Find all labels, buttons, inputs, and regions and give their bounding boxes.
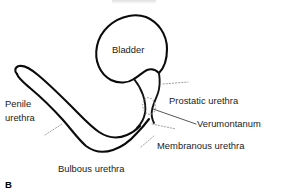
membranous-urethra-boundary-leader: [152, 124, 176, 129]
anatomy-line-drawing: [0, 0, 283, 195]
penile-urethra-label-line1: Penile: [5, 98, 31, 109]
urethra-anatomy-figure: Bladder Penile urethra Bulbous urethra P…: [0, 0, 283, 195]
bladder-label: Bladder: [112, 44, 144, 55]
penile-urethra-label-line2: urethra: [5, 112, 35, 123]
prostatic-urethra-left-wall: [134, 79, 145, 128]
prostatic-urethra-right-wall: [152, 73, 160, 123]
membranous-urethra-label: Membranous urethra: [157, 140, 244, 151]
urethra-upper-wall: [15, 66, 140, 138]
prostatic-urethra-label: Prostatic urethra: [169, 95, 238, 106]
verumontanum-label: Verumontanum: [197, 118, 261, 129]
bulbous-urethra-label: Bulbous urethra: [58, 163, 125, 174]
penile-urethra-leader: [45, 124, 62, 135]
urethra-lower-wall: [17, 74, 149, 152]
membranous-urethra-leader: [141, 135, 155, 147]
verumontanum-leader: [153, 109, 196, 124]
prostatic-urethra-leader: [163, 82, 188, 84]
panel-letter-label: B: [5, 180, 12, 190]
